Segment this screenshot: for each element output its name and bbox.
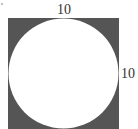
inscribed-circle	[9, 19, 119, 129]
corner-dot	[1, 3, 3, 5]
right-side-label: 10	[121, 66, 135, 81]
square-inscribed-circle-diagram: 10 10	[0, 0, 138, 129]
top-side-label: 10	[57, 2, 71, 17]
